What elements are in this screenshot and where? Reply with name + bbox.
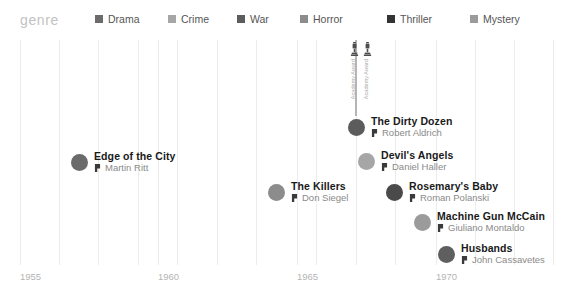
data-point-subtitle: Don Siegel <box>291 193 348 203</box>
legend-item-label: Drama <box>108 14 140 25</box>
data-point-title: Edge of the City <box>94 151 176 162</box>
gridline <box>553 40 554 265</box>
data-point[interactable]: Edge of the CityMartin Ritt <box>71 151 176 174</box>
gridline <box>256 40 257 265</box>
data-point-director: Daniel Haller <box>392 162 446 172</box>
data-point[interactable]: Rosemary's BabyRoman Polanski <box>386 181 498 204</box>
legend-swatch-mystery <box>470 15 478 23</box>
data-point-text: The KillersDon Siegel <box>291 181 348 204</box>
data-point-dot[interactable] <box>268 184 285 201</box>
data-point-text: Rosemary's BabyRoman Polanski <box>409 181 498 204</box>
x-axis-tick-label: 1970 <box>436 271 457 282</box>
director-flag-icon <box>381 163 388 171</box>
data-point-dot[interactable] <box>438 246 455 263</box>
data-point-director: Roman Polanski <box>420 193 489 203</box>
legend-item-mystery[interactable]: Mystery <box>470 14 520 25</box>
data-point-title: Husbands <box>461 243 545 254</box>
plot-area: Edge of the CityMartin RittThe Dirty Doz… <box>0 40 568 265</box>
legend-item-label: Crime <box>181 14 209 25</box>
data-point-director: Giuliano Montaldo <box>448 223 525 233</box>
x-axis-tick-label: 1955 <box>20 271 41 282</box>
legend-item-label: Mystery <box>483 14 520 25</box>
award-trophy-icon <box>350 42 359 56</box>
director-flag-icon <box>461 256 468 264</box>
legend-item-war[interactable]: War <box>237 14 269 25</box>
gridline <box>59 40 60 265</box>
data-point-subtitle: Martin Ritt <box>94 163 176 173</box>
data-point-subtitle: Robert Aldrich <box>371 128 452 138</box>
data-point-director: Robert Aldrich <box>382 128 442 138</box>
data-point-title: Devil's Angels <box>381 150 453 161</box>
x-axis-tick-label: 1965 <box>297 271 318 282</box>
award-callout: Academy AwardAcademy Award <box>336 40 376 116</box>
legend-swatch-drama <box>95 15 103 23</box>
data-point-dot[interactable] <box>414 214 431 231</box>
data-point-dot[interactable] <box>71 154 88 171</box>
legend-swatch-crime <box>168 15 176 23</box>
data-point-text: Devil's AngelsDaniel Haller <box>381 150 453 173</box>
data-point[interactable]: HusbandsJohn Cassavetes <box>438 243 545 266</box>
data-point[interactable]: Machine Gun McCainGiuliano Montaldo <box>414 211 545 234</box>
gridline <box>316 40 317 265</box>
legend: genre DramaCrimeWarHorrorThrillerMystery <box>0 0 568 40</box>
data-point-text: Machine Gun McCainGiuliano Montaldo <box>437 211 545 234</box>
award-label: Academy Award <box>351 59 356 99</box>
data-point-text: The Dirty DozenRobert Aldrich <box>371 116 452 139</box>
director-flag-icon <box>94 164 101 172</box>
director-flag-icon <box>371 129 378 137</box>
data-point-director: Martin Ritt <box>105 163 148 173</box>
director-flag-icon <box>291 194 298 202</box>
data-point[interactable]: The Dirty DozenRobert Aldrich <box>348 116 452 139</box>
award-trophy-icon <box>363 42 372 56</box>
data-point-text: HusbandsJohn Cassavetes <box>461 243 545 266</box>
data-point-dot[interactable] <box>386 184 403 201</box>
data-point-subtitle: Daniel Haller <box>381 162 453 172</box>
data-point[interactable]: The KillersDon Siegel <box>268 181 348 204</box>
data-point-title: The Killers <box>291 181 348 192</box>
legend-item-label: Horror <box>313 14 343 25</box>
legend-item-label: Thriller <box>400 14 432 25</box>
data-point-title: Machine Gun McCain <box>437 211 545 222</box>
data-point-text: Edge of the CityMartin Ritt <box>94 151 176 174</box>
legend-item-thriller[interactable]: Thriller <box>387 14 432 25</box>
data-point-subtitle: Roman Polanski <box>409 193 498 203</box>
legend-swatch-war <box>237 15 245 23</box>
data-point[interactable]: Devil's AngelsDaniel Haller <box>358 150 453 173</box>
gridline <box>297 40 298 265</box>
data-point-director: Don Siegel <box>302 193 348 203</box>
data-point-dot[interactable] <box>348 119 365 136</box>
data-point-dot[interactable] <box>358 153 375 170</box>
legend-swatch-thriller <box>387 15 395 23</box>
legend-title: genre <box>20 12 59 28</box>
gridline <box>177 40 178 265</box>
award-label: Academy Award <box>364 59 369 99</box>
legend-item-label: War <box>250 14 269 25</box>
data-point-subtitle: Giuliano Montaldo <box>437 223 545 233</box>
legend-item-drama[interactable]: Drama <box>95 14 140 25</box>
legend-item-horror[interactable]: Horror <box>300 14 343 25</box>
legend-item-crime[interactable]: Crime <box>168 14 209 25</box>
gridline <box>20 40 21 265</box>
award-column[interactable]: Academy Award <box>359 42 375 99</box>
x-axis-tick-label: 1960 <box>158 271 179 282</box>
director-flag-icon <box>409 194 416 202</box>
x-axis: 1955196019651970 <box>0 265 568 302</box>
data-point-title: Rosemary's Baby <box>409 181 498 192</box>
gridline <box>217 40 218 265</box>
legend-swatch-horror <box>300 15 308 23</box>
director-flag-icon <box>437 224 444 232</box>
data-point-title: The Dirty Dozen <box>371 116 452 127</box>
